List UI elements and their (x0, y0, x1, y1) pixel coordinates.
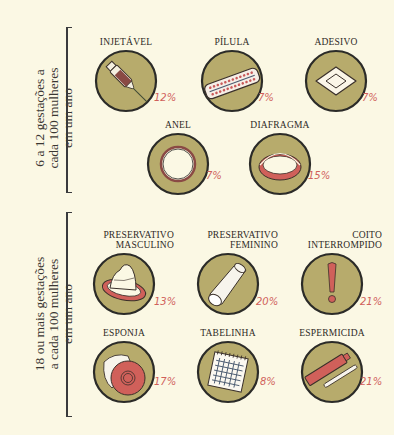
group-bracket-1 (66, 27, 72, 193)
method-name-line: MASCULINO (116, 240, 174, 250)
percent-label: 7% (258, 92, 274, 103)
method-name: PÍLULA (182, 27, 282, 47)
sponge-icon (92, 340, 156, 404)
calendar-icon (196, 340, 260, 404)
method-name-line: INTERROMPIDO (308, 240, 382, 250)
method-diafragma: DIAFRAGMA (230, 110, 330, 196)
method-name: PRESERVATIVO MASCULINO (74, 230, 174, 250)
percent-label: 13% (154, 296, 176, 307)
method-name: PRESERVATIVO FEMININO (178, 230, 278, 250)
method-name-line: COITO (352, 230, 382, 240)
method-name: TABELINHA (178, 326, 278, 338)
percent-label: 8% (260, 376, 276, 387)
exclamation-icon (300, 252, 364, 316)
group-label-line: 6 a 12 gestações a (33, 53, 47, 183)
method-name-line: FEMININO (230, 240, 278, 250)
method-name: ADESIVO (286, 27, 386, 47)
method-name-line: PRESERVATIVO (103, 230, 174, 240)
spermicide-tube-icon (300, 340, 364, 404)
percent-label: 7% (362, 92, 378, 103)
female-condom-icon (196, 252, 260, 316)
method-anel: ANEL (128, 110, 228, 196)
method-name: ANEL (128, 110, 228, 130)
percent-label: 20% (256, 296, 278, 307)
group-bracket-2 (66, 212, 72, 417)
method-esponja: ESPONJA (74, 326, 174, 404)
percent-label: 12% (154, 92, 176, 103)
method-name: COITO INTERROMPIDO (282, 230, 382, 250)
percent-label: 7% (206, 170, 222, 181)
group-label-line: 18 ou mais gestações (33, 242, 47, 386)
method-name: INJETÁVEL (76, 27, 176, 47)
percent-label: 15% (308, 170, 330, 181)
method-name: ESPERMICIDA (282, 326, 382, 338)
percent-label: 17% (154, 376, 176, 387)
method-espermicida: ESPERMICIDA (282, 326, 382, 404)
method-name: ESPONJA (74, 326, 174, 338)
method-tabelinha: TABELINHA (178, 326, 278, 404)
percent-label: 21% (360, 296, 382, 307)
pill-pack-icon (200, 49, 264, 113)
diaphragm-icon (248, 132, 312, 196)
vaginal-ring-icon (146, 132, 210, 196)
method-name-line: PRESERVATIVO (207, 230, 278, 240)
percent-label: 21% (360, 376, 382, 387)
patch-icon (304, 49, 368, 113)
syringe-icon (94, 49, 158, 113)
group-label-line: cada 100 mulheres (47, 53, 61, 183)
male-condom-icon (92, 252, 156, 316)
group-label-line: a cada 100 mulheres (47, 242, 61, 386)
method-name: DIAFRAGMA (230, 110, 330, 130)
